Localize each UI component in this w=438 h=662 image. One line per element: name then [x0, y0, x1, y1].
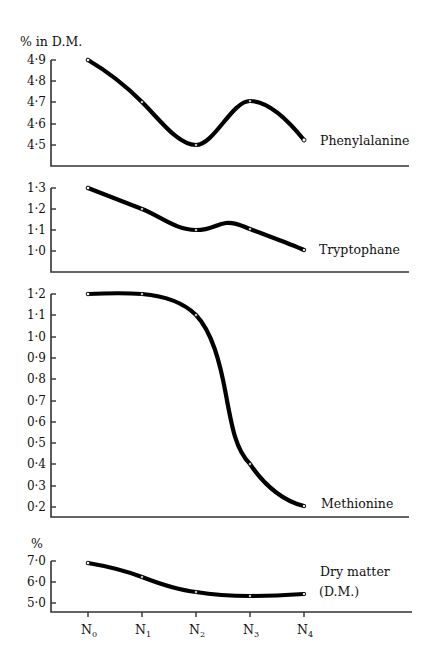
- x-tick-label-n2: N2: [189, 622, 205, 639]
- panel-dry-matter: % 7·0 6·0 5·0 Dry matter (D.M.): [27, 536, 412, 639]
- y-tick-label: 6·0: [27, 575, 46, 589]
- series-label-dry-matter-abbrev: (D.M.): [319, 584, 359, 599]
- x-tick-label-n0: N0: [81, 622, 97, 639]
- panel-methionine: 1·2 1·1 1·0 0·9 0·8 0·7 0·6 0·5 0·4 0·3 …: [27, 287, 409, 517]
- y-tick-label: 1·0: [27, 330, 46, 344]
- y-tick-label: 0·4: [27, 457, 46, 471]
- data-points-phenylalanine: [86, 58, 306, 146]
- x-tick-labels: N0 N1 N2 N3 N4: [81, 622, 313, 639]
- y-tick-label: 4·9: [27, 53, 46, 67]
- series-label-tryptophane: Tryptophane: [319, 242, 400, 257]
- y-tick-label: 0·2: [27, 500, 46, 514]
- series-label-phenylalanine: Phenylalanine: [320, 133, 409, 148]
- x-tick-label-n3: N3: [243, 622, 259, 639]
- y-tick-label: 1·1: [27, 223, 46, 237]
- y-axis-label-percent: %: [31, 536, 43, 551]
- series-label-methionine: Methionine: [321, 496, 393, 511]
- data-points-dry-matter: [86, 561, 305, 597]
- y-tick-label: 0·3: [27, 479, 46, 493]
- y-tick-label: 7·0: [27, 554, 46, 568]
- methionine-curve: [88, 293, 304, 506]
- data-points-methionine: [86, 292, 305, 507]
- y-axis-label-percent-dm: % in D.M.: [20, 34, 82, 49]
- y-tick-label: 5·0: [27, 596, 46, 610]
- data-points-tryptophane: [86, 186, 305, 251]
- panel-tryptophane: 1·3 1·2 1·1 1·0 Tryptophane: [27, 181, 409, 272]
- y-tick-label: 0·5: [27, 436, 46, 450]
- y-tick-label: 1·2: [27, 202, 46, 216]
- y-tick-label: 4·6: [27, 117, 46, 131]
- y-tick-label: 1·0: [27, 244, 46, 258]
- axes-tryptophane: [51, 188, 409, 272]
- y-tick-label: 1·1: [27, 308, 46, 322]
- x-tick-label-n1: N1: [135, 622, 151, 639]
- y-tick-label: 4·5: [27, 138, 46, 152]
- series-label-dry-matter: Dry matter: [320, 564, 390, 579]
- y-tick-label: 0·8: [27, 372, 46, 386]
- amino-acid-chart: % in D.M. 4·9 4·8 4·7 4·6 4·5 Phenylalan…: [0, 0, 438, 662]
- y-tick-label: 1·3: [27, 181, 46, 195]
- y-tick-label: 4·8: [27, 74, 46, 88]
- y-tick-label: 0·9: [27, 351, 46, 365]
- y-tick-label: 1·2: [27, 287, 46, 301]
- y-tick-label: 4·7: [27, 95, 46, 109]
- panel-phenylalanine: % in D.M. 4·9 4·8 4·7 4·6 4·5 Phenylalan…: [20, 34, 409, 166]
- x-tick-label-n4: N4: [297, 622, 313, 639]
- y-tick-label: 0·6: [27, 415, 46, 429]
- phenylalanine-curve: [88, 60, 304, 145]
- tryptophane-curve: [88, 188, 304, 250]
- y-tick-label: 0·7: [27, 394, 46, 408]
